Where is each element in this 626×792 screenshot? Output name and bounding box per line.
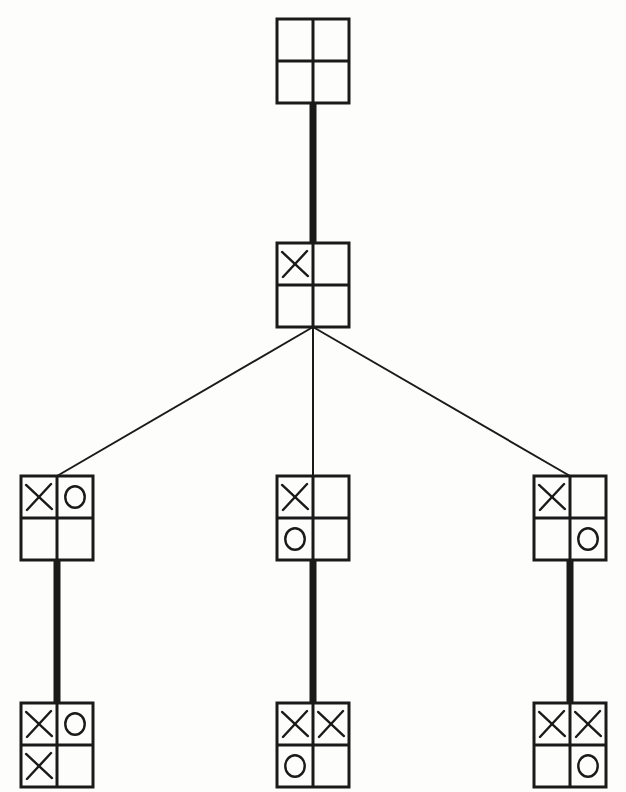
board-node-root-empty-board[interactable] bbox=[277, 19, 349, 103]
tree-canvas bbox=[0, 0, 626, 792]
board-node-x-top-left-o-bottom-left[interactable] bbox=[277, 476, 349, 560]
game-tree-diagram bbox=[0, 0, 626, 792]
board-node-x-top-left-o-bottom-right[interactable] bbox=[534, 476, 606, 560]
board-node-x-top-left[interactable] bbox=[277, 243, 349, 327]
board-node-x-top-left-o-top-right[interactable] bbox=[21, 476, 93, 560]
board-node-x-top-left-o-top-right-x-bottom-left[interactable] bbox=[21, 703, 93, 787]
board-node-x-top-left-x-top-right-o-bottom-left[interactable] bbox=[277, 703, 349, 787]
edge-layer bbox=[57, 103, 570, 703]
tree-edge-branch-right bbox=[313, 327, 570, 476]
tree-edge-branch-left bbox=[57, 327, 313, 476]
board-node-x-top-left-x-top-right-o-bottom-right[interactable] bbox=[534, 703, 606, 787]
